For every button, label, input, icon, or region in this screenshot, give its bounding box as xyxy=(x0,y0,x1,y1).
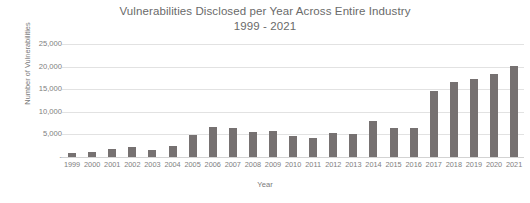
x-axis-tick-label: 2013 xyxy=(343,160,363,169)
bar xyxy=(68,153,76,157)
chart-title: Vulnerabilities Disclosed per Year Acros… xyxy=(0,4,530,19)
bar-slot xyxy=(464,44,484,157)
x-axis-tick-label: 2021 xyxy=(504,160,524,169)
y-axis-tick-label: 10,000 xyxy=(18,108,62,116)
bar-slot xyxy=(323,44,343,157)
bar-slot xyxy=(223,44,243,157)
bar xyxy=(148,150,156,157)
x-axis-tick-label: 2004 xyxy=(162,160,182,169)
x-axis-tick-label: 2010 xyxy=(283,160,303,169)
x-axis-tick-label: 2017 xyxy=(424,160,444,169)
x-axis-tick-label: 2001 xyxy=(102,160,122,169)
bar xyxy=(128,147,136,157)
bar xyxy=(329,133,337,157)
bar-slot xyxy=(404,44,424,157)
y-axis-tick-label: 5,000 xyxy=(18,130,62,138)
bar-slot xyxy=(142,44,162,157)
x-axis-tick-label: 2003 xyxy=(142,160,162,169)
bar-slot xyxy=(122,44,142,157)
bar-slot xyxy=(504,44,524,157)
bar-slot xyxy=(283,44,303,157)
bar-slot xyxy=(303,44,323,157)
x-axis-tick-label: 2020 xyxy=(484,160,504,169)
x-axis-tick-label: 2019 xyxy=(464,160,484,169)
y-axis-tick-label: 20,000 xyxy=(18,63,62,71)
bar xyxy=(88,152,96,157)
x-axis-ticks: 1999200020012002200320042005200620072008… xyxy=(62,160,524,169)
bar-chart: Vulnerabilities Disclosed per Year Acros… xyxy=(0,0,530,203)
bar xyxy=(369,121,377,157)
bar xyxy=(108,149,116,157)
x-axis-tick-label: 2008 xyxy=(243,160,263,169)
bar-slot xyxy=(183,44,203,157)
y-axis-tick-label: 25,000 xyxy=(18,40,62,48)
bar-slot xyxy=(263,44,283,157)
x-axis-tick-label: 2006 xyxy=(203,160,223,169)
x-axis-line xyxy=(62,157,524,158)
x-axis-tick-label: 2002 xyxy=(122,160,142,169)
bar-slot xyxy=(424,44,444,157)
bar-slot xyxy=(484,44,504,157)
x-axis-tick-label: 2000 xyxy=(82,160,102,169)
bar-slot xyxy=(363,44,383,157)
bar xyxy=(510,66,518,157)
x-axis-title: Year xyxy=(0,180,530,189)
y-axis-tick-label: - xyxy=(18,153,62,161)
bar xyxy=(309,138,317,157)
plot-area xyxy=(62,44,524,157)
y-axis-tick-label: 15,000 xyxy=(18,85,62,93)
x-axis-tick-label: 2007 xyxy=(223,160,243,169)
bar-series xyxy=(62,44,524,157)
bar xyxy=(450,82,458,157)
bar xyxy=(169,146,177,157)
bar xyxy=(390,128,398,157)
bar xyxy=(229,128,237,157)
bar-slot xyxy=(384,44,404,157)
x-axis-tick-label: 2016 xyxy=(404,160,424,169)
bar xyxy=(269,131,277,157)
bar xyxy=(209,127,217,157)
bar xyxy=(410,128,418,157)
bar-slot xyxy=(82,44,102,157)
bar-slot xyxy=(102,44,122,157)
bar xyxy=(249,132,257,157)
bar xyxy=(430,91,438,157)
x-axis-tick-label: 2014 xyxy=(363,160,383,169)
bar xyxy=(490,74,498,157)
bar xyxy=(349,134,357,157)
x-axis-tick-label: 2011 xyxy=(303,160,323,169)
bar xyxy=(189,135,197,157)
bar-slot xyxy=(343,44,363,157)
bar-slot xyxy=(62,44,82,157)
chart-subtitle: 1999 - 2021 xyxy=(0,19,530,34)
bar-slot xyxy=(203,44,223,157)
x-axis-tick-label: 2015 xyxy=(384,160,404,169)
bar xyxy=(289,136,297,157)
bar-slot xyxy=(162,44,182,157)
x-axis-tick-label: 2009 xyxy=(263,160,283,169)
bar-slot xyxy=(243,44,263,157)
bar-slot xyxy=(444,44,464,157)
x-axis-tick-label: 1999 xyxy=(62,160,82,169)
x-axis-tick-label: 2018 xyxy=(444,160,464,169)
x-axis-tick-label: 2005 xyxy=(183,160,203,169)
bar xyxy=(470,79,478,157)
x-axis-tick-label: 2012 xyxy=(323,160,343,169)
